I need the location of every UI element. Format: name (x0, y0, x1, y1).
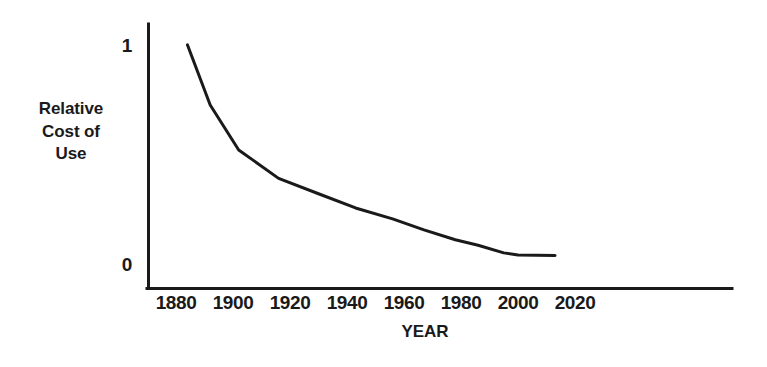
data-line-relative-cost-of-use (187, 45, 555, 256)
x-tick-label-1880: 1880 (146, 292, 206, 314)
x-tick-label-1920: 1920 (260, 292, 320, 314)
y-tick-label-1: 1 (110, 35, 132, 57)
y-axis-title-line-2: Cost of (12, 121, 130, 144)
x-tick-label-1940: 1940 (317, 292, 377, 314)
x-tick-label-2000: 2000 (488, 292, 548, 314)
y-tick-label-0: 0 (110, 254, 132, 276)
y-axis-title: Relative Cost of Use (12, 98, 130, 166)
y-axis-title-line-3: Use (12, 143, 130, 166)
chart-figure: Relative Cost of Use YEAR 1 0 1880 1900 … (0, 0, 767, 367)
x-tick-label-1980: 1980 (431, 292, 491, 314)
y-axis-title-line-1: Relative (12, 98, 130, 121)
axis-lines (147, 24, 732, 289)
x-tick-label-1900: 1900 (203, 292, 263, 314)
x-axis-title: YEAR (355, 321, 495, 344)
x-tick-label-2020: 2020 (545, 292, 605, 314)
data-series-group (187, 45, 555, 256)
x-tick-label-1960: 1960 (374, 292, 434, 314)
